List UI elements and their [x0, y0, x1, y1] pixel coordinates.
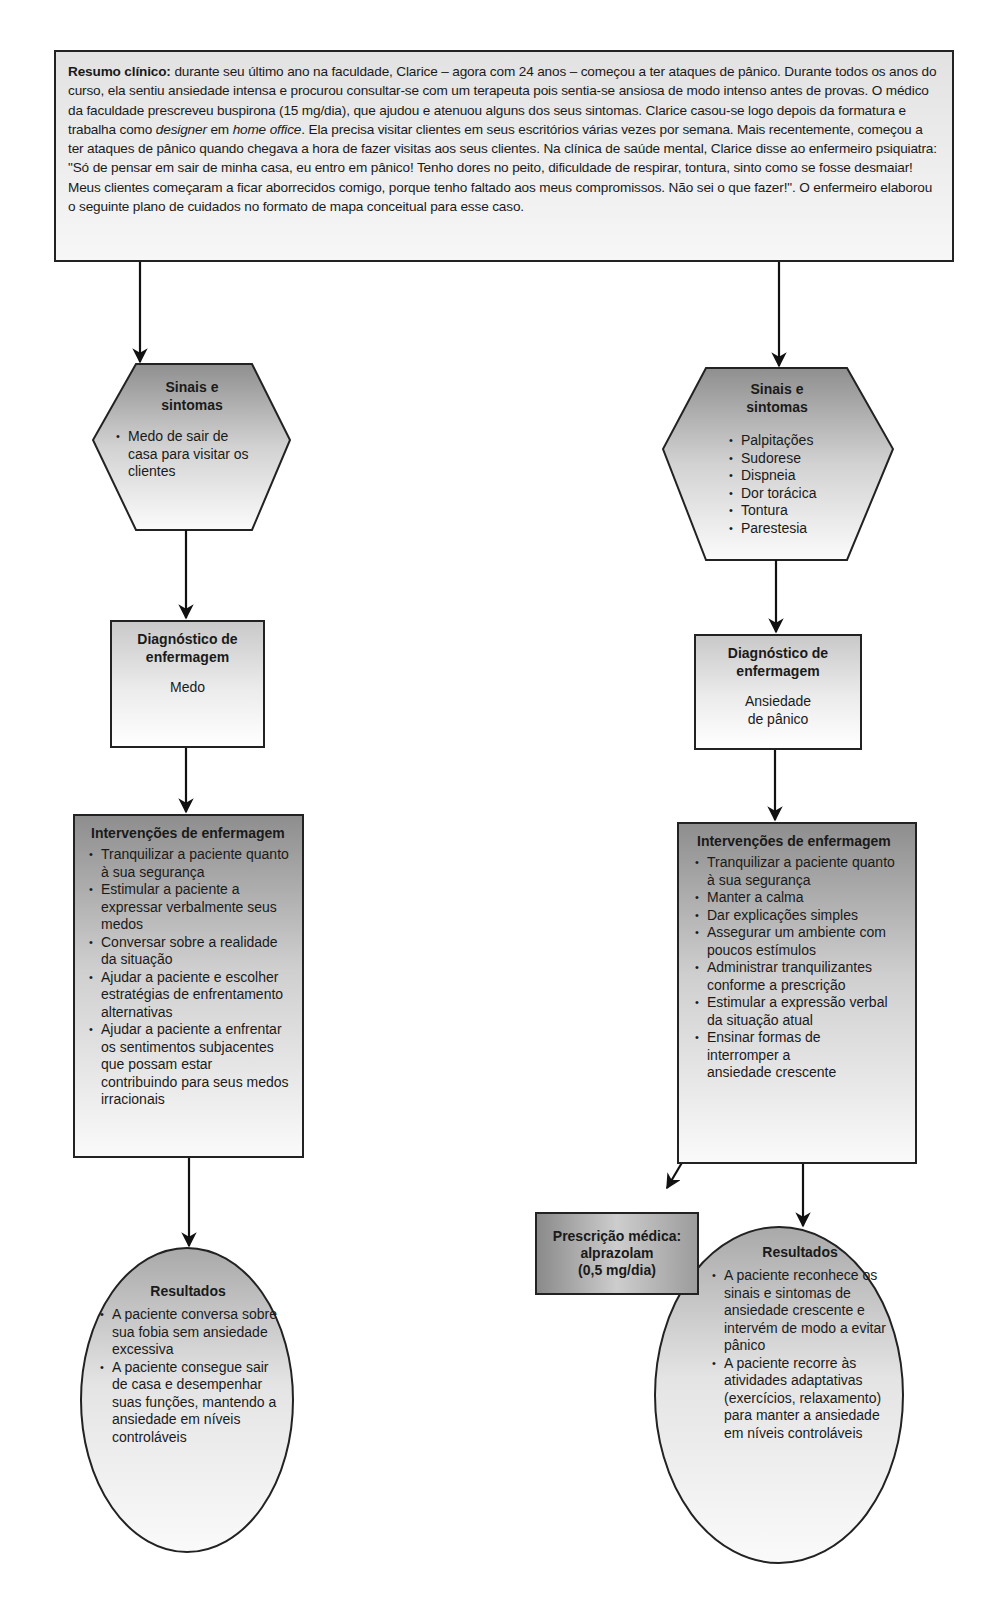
- right-diagnosis-value-1: Ansiedade: [696, 692, 860, 710]
- left-results-list: A paciente conversa sobre sua fobia sem …: [98, 1306, 278, 1446]
- right-diagnosis-value-2: de pânico: [696, 710, 860, 728]
- left-diagnosis-box: Diagnóstico de enfermagem Medo: [110, 620, 265, 748]
- left-interventions-title: Intervenções de enfermagem: [87, 824, 292, 842]
- right-diagnosis-title-1: Diagnóstico de: [696, 644, 860, 662]
- left-results-title: Resultados: [98, 1282, 278, 1300]
- list-item: Medo de sair de casa para visitar os cli…: [114, 428, 258, 481]
- prescription-line-1: Prescrição médica:: [553, 1228, 681, 1245]
- summary-label: Resumo clínico:: [68, 64, 171, 79]
- prescription-box: Prescrição médica: alprazolam (0,5 mg/di…: [535, 1212, 699, 1295]
- list-item: Ajudar a paciente a enfrentar os sentime…: [87, 1021, 292, 1109]
- prescription-line-3: (0,5 mg/dia): [553, 1262, 681, 1279]
- list-item: A paciente conversa sobre sua fobia sem …: [98, 1306, 278, 1359]
- right-interventions-title: Intervenções de enfermagem: [693, 832, 905, 850]
- right-interventions-list: Tranquilizar a paciente quanto à sua seg…: [693, 854, 905, 1082]
- left-interventions-box: Intervenções de enfermagem Tranquilizar …: [73, 814, 304, 1158]
- list-item: Sudorese: [727, 450, 857, 468]
- list-item: Tranquilizar a paciente quanto à sua seg…: [87, 846, 292, 881]
- left-results-content: Resultados A paciente conversa sobre sua…: [98, 1282, 278, 1446]
- list-item: Administrar tranquilizantes conforme a p…: [693, 959, 905, 994]
- list-item: Tontura: [727, 502, 857, 520]
- right-signs-title-2: sintomas: [697, 398, 857, 416]
- left-diagnosis-title-2: enfermagem: [112, 648, 263, 666]
- left-signs-title-2: sintomas: [112, 396, 272, 414]
- list-item: Tranquilizar a paciente quanto à sua seg…: [693, 854, 905, 889]
- left-signs-content: Sinais e sintomas Medo de sair de casa p…: [112, 378, 272, 481]
- list-item: A paciente reconhece os sinais e sintoma…: [710, 1267, 890, 1355]
- right-signs-list: Palpitações Sudorese Dispneia Dor toráci…: [697, 432, 857, 537]
- list-item: Conversar sobre a realidade da situação: [87, 934, 292, 969]
- list-item: Ensinar formas de interromper a ansiedad…: [693, 1029, 857, 1082]
- list-item: Dispneia: [727, 467, 857, 485]
- left-signs-title-1: Sinais e: [112, 378, 272, 396]
- list-item: Parestesia: [727, 520, 857, 538]
- list-item: Dor torácica: [727, 485, 857, 503]
- list-item: Palpitações: [727, 432, 857, 450]
- right-signs-title-1: Sinais e: [697, 380, 857, 398]
- list-item: Assegurar um ambiente com poucos estímul…: [693, 924, 905, 959]
- summary-text-2: em: [207, 122, 233, 137]
- list-item: A paciente recorre às atividades adaptat…: [710, 1355, 890, 1443]
- right-results-list: A paciente reconhece os sinais e sintoma…: [710, 1267, 890, 1442]
- right-diagnosis-box: Diagnóstico de enfermagem Ansiedade de p…: [694, 634, 862, 750]
- right-results-title: Resultados: [710, 1243, 890, 1261]
- list-item: Manter a calma: [693, 889, 905, 907]
- clinical-summary-box: Resumo clínico: durante seu último ano n…: [54, 50, 954, 262]
- prescription-line-2: alprazolam: [553, 1245, 681, 1262]
- list-item: Ajudar a paciente e escolher estratégias…: [87, 969, 292, 1022]
- list-item: Estimular a expressão verbal da situação…: [693, 994, 905, 1029]
- list-item: Dar explicações simples: [693, 907, 905, 925]
- summary-italic-1: designer: [156, 122, 207, 137]
- right-signs-content: Sinais e sintomas Palpitações Sudorese D…: [697, 380, 857, 537]
- left-signs-list: Medo de sair de casa para visitar os cli…: [112, 428, 272, 481]
- left-diagnosis-title-1: Diagnóstico de: [112, 630, 263, 648]
- list-item: Estimular a paciente a expressar verbalm…: [87, 881, 292, 934]
- left-diagnosis-value: Medo: [112, 678, 263, 696]
- right-results-content: Resultados A paciente reconhece os sinai…: [710, 1243, 890, 1442]
- list-item: A paciente consegue sair de casa e desem…: [98, 1359, 278, 1447]
- left-interventions-list: Tranquilizar a paciente quanto à sua seg…: [87, 846, 292, 1109]
- right-diagnosis-title-2: enfermagem: [696, 662, 860, 680]
- summary-italic-2: home office: [233, 122, 302, 137]
- right-interventions-box: Intervenções de enfermagem Tranquilizar …: [677, 822, 917, 1164]
